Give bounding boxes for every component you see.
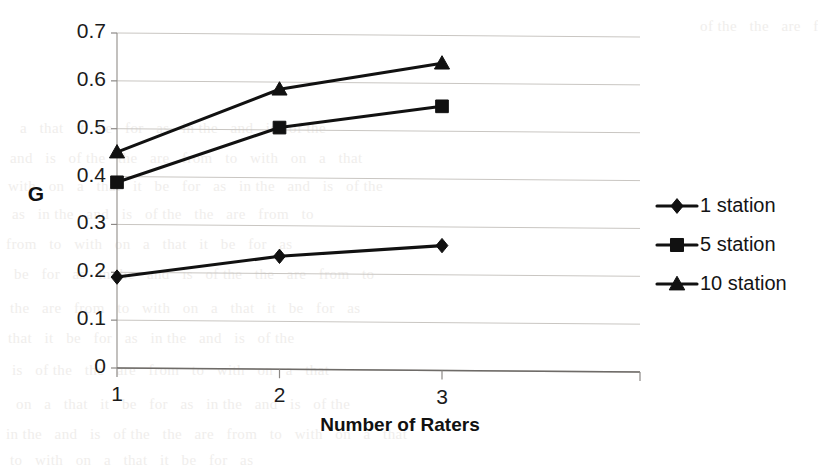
tick-marks-group	[111, 33, 640, 381]
data-point-diamond	[274, 249, 286, 263]
legend-item[interactable]: 1 station	[655, 186, 787, 225]
gridline	[117, 272, 640, 276]
square-marker-icon	[655, 234, 699, 256]
y-tick-label: 0.7	[40, 19, 106, 43]
diamond-marker-icon	[655, 195, 699, 217]
y-tick-label: 0.3	[40, 210, 106, 234]
triangle-marker-icon	[655, 273, 699, 295]
x-axis-line	[117, 368, 640, 372]
data-point-square	[436, 100, 449, 113]
legend-item[interactable]: 5 station	[655, 225, 787, 264]
y-tick-label: 0.5	[40, 115, 106, 139]
data-point-triangle	[434, 56, 449, 69]
y-tick-label: 0.1	[40, 306, 106, 330]
x-tick-label: 3	[402, 385, 482, 409]
gridline	[117, 81, 640, 85]
data-point-square	[111, 176, 124, 189]
legend-item-label: 1 station	[700, 194, 776, 217]
y-tick-label: 0	[40, 354, 106, 378]
x-axis-title: Number of Raters	[250, 414, 550, 436]
gridlines-group	[117, 33, 640, 372]
x-tick-label: 1	[77, 382, 157, 406]
gridline	[117, 33, 640, 37]
series-line	[117, 106, 442, 182]
gridline	[117, 224, 640, 228]
series-triangle	[109, 56, 449, 158]
y-tick-label: 0.2	[40, 258, 106, 282]
gridline	[117, 129, 640, 133]
series-square	[111, 100, 449, 189]
data-point-square	[273, 121, 286, 134]
gridline	[117, 177, 640, 181]
series-diamond	[111, 238, 448, 284]
legend-item-label: 5 station	[700, 233, 776, 256]
data-point-diamond	[436, 238, 448, 252]
chart-figure: of the the are from to with on a that a …	[0, 0, 818, 476]
x-tick-label: 2	[240, 383, 320, 407]
series-line	[117, 63, 442, 152]
y-axis-title: G	[16, 182, 56, 206]
gridline	[117, 320, 640, 324]
y-tick-label: 0.6	[40, 67, 106, 91]
legend-item-label: 10 station	[700, 272, 787, 295]
data-series-group	[109, 56, 449, 285]
chart-legend: 1 station5 station10 station	[655, 186, 787, 303]
legend-item[interactable]: 10 station	[655, 264, 787, 303]
